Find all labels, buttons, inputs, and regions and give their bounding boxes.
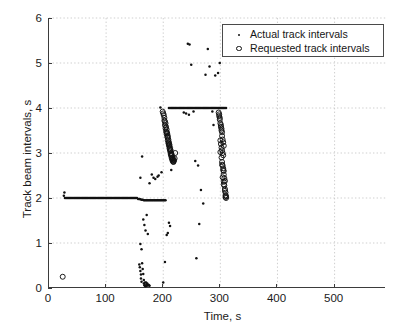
data-point xyxy=(197,164,200,167)
x-tick-label: 300 xyxy=(210,292,229,304)
chart-legend: Actual track intervals Requested track i… xyxy=(222,24,384,57)
y-tick-label: 0 xyxy=(36,282,42,294)
data-point xyxy=(140,273,143,276)
data-point xyxy=(151,173,154,176)
legend-label-actual: Actual track intervals xyxy=(250,28,348,40)
data-point xyxy=(194,160,197,163)
data-point xyxy=(169,225,172,228)
y-tick-label: 6 xyxy=(36,12,42,24)
data-point xyxy=(141,262,144,265)
data-point xyxy=(140,280,143,283)
data-point xyxy=(143,279,146,282)
data-point xyxy=(146,282,149,285)
data-point xyxy=(141,155,144,158)
x-axis-title: Time, s xyxy=(0,310,405,322)
data-point xyxy=(225,107,228,110)
data-point xyxy=(141,268,144,271)
circle-marker-icon xyxy=(228,39,250,57)
data-point xyxy=(170,169,173,172)
scatter-canvas xyxy=(49,18,386,288)
data-point xyxy=(138,263,141,266)
data-point xyxy=(188,43,191,46)
data-point xyxy=(139,243,142,246)
data-point xyxy=(164,261,167,264)
data-point xyxy=(208,65,211,68)
plot-area xyxy=(48,18,385,288)
data-point xyxy=(143,224,146,227)
chart-figure: Time, s Track beam intervals, s Actual t… xyxy=(0,0,405,334)
data-point xyxy=(183,111,186,114)
legend-label-requested: Requested track intervals xyxy=(250,42,370,54)
data-point xyxy=(190,64,193,67)
y-tick-label: 4 xyxy=(36,102,42,114)
data-point xyxy=(188,114,191,117)
data-point xyxy=(142,218,145,221)
data-point xyxy=(142,273,145,276)
data-point xyxy=(140,277,143,280)
data-point xyxy=(164,199,167,202)
y-tick-mark xyxy=(48,18,52,19)
data-point xyxy=(154,178,157,181)
data-point xyxy=(198,223,201,226)
y-tick-mark xyxy=(48,108,52,109)
x-tick-label: 400 xyxy=(267,292,286,304)
x-tick-label: 200 xyxy=(153,292,172,304)
x-tick-mark xyxy=(105,284,106,288)
data-point xyxy=(147,233,150,236)
data-point xyxy=(63,191,66,194)
data-point xyxy=(148,285,151,288)
legend-item-requested: Requested track intervals xyxy=(223,41,383,55)
data-point xyxy=(63,195,66,198)
data-point xyxy=(140,248,143,251)
x-tick-label: 100 xyxy=(96,292,115,304)
data-point xyxy=(200,189,203,192)
data-point xyxy=(212,124,215,127)
x-tick-label: 0 xyxy=(45,292,51,304)
data-point xyxy=(144,229,147,232)
x-tick-mark xyxy=(276,284,277,288)
x-tick-mark xyxy=(219,284,220,288)
x-tick-mark xyxy=(334,284,335,288)
y-tick-label: 5 xyxy=(36,57,42,69)
y-tick-mark xyxy=(48,63,52,64)
data-point xyxy=(60,274,65,279)
y-tick-label: 3 xyxy=(36,147,42,159)
data-point xyxy=(207,48,210,51)
data-point xyxy=(157,174,160,177)
data-point xyxy=(160,171,163,174)
y-tick-label: 1 xyxy=(36,237,42,249)
y-tick-mark xyxy=(48,243,52,244)
data-point xyxy=(185,112,188,115)
data-point xyxy=(219,62,222,65)
data-point xyxy=(167,232,170,235)
data-point xyxy=(139,266,142,269)
series-requested xyxy=(60,109,228,279)
data-point xyxy=(211,110,214,113)
x-tick-label: 500 xyxy=(324,292,343,304)
series-actual xyxy=(63,42,228,287)
data-point xyxy=(139,177,142,180)
data-point xyxy=(159,106,162,109)
y-tick-mark xyxy=(48,198,52,199)
data-point xyxy=(192,110,195,113)
y-tick-mark xyxy=(48,288,52,289)
data-point xyxy=(168,222,171,225)
y-axis-title: Track beam intervals, s xyxy=(21,44,33,274)
data-point xyxy=(217,72,220,75)
y-tick-mark xyxy=(48,153,52,154)
x-tick-mark xyxy=(162,284,163,288)
data-point xyxy=(148,182,151,185)
data-point xyxy=(214,74,217,77)
y-tick-label: 2 xyxy=(36,192,42,204)
data-point xyxy=(204,73,207,76)
data-point xyxy=(202,202,205,205)
data-point xyxy=(139,270,142,273)
data-point xyxy=(195,257,198,260)
data-point xyxy=(145,214,148,217)
